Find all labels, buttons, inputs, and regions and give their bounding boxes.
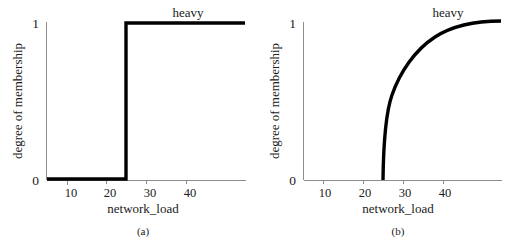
plot-b: 1 0 10 20 30 40 network_load degree of m… <box>252 0 504 246</box>
x-tick-label-20-a: 20 <box>104 186 117 200</box>
y-axis-title-a: degree of membership <box>10 43 25 159</box>
plot-a: 1 0 10 20 30 40 network_load degree of m… <box>0 0 252 246</box>
curve-label-heavy-b: heavy <box>432 5 464 20</box>
y-tick-label-bottom-a: 0 <box>32 173 39 188</box>
panel-caption-a: (a) <box>137 225 150 238</box>
panel-a: 1 0 10 20 30 40 network_load degree of m… <box>0 0 252 246</box>
x-axis-title-b: network_load <box>362 201 434 216</box>
x-tick-label-10-b: 10 <box>319 186 332 200</box>
curve-label-heavy-a: heavy <box>172 5 204 20</box>
x-axis-title-a: network_load <box>107 201 179 216</box>
membership-curve-a <box>47 23 245 179</box>
y-tick-label-top-a: 1 <box>32 16 39 31</box>
y-tick-label-top-b: 1 <box>289 16 296 31</box>
panel-caption-b: (b) <box>392 225 405 238</box>
figure-two-membership-functions: 1 0 10 20 30 40 network_load degree of m… <box>0 0 505 246</box>
membership-curve-b <box>383 21 501 180</box>
panel-b: 1 0 10 20 30 40 network_load degree of m… <box>252 0 504 246</box>
y-axis-title-b: degree of membership <box>267 43 282 159</box>
x-tick-label-30-a: 30 <box>144 186 157 200</box>
x-tick-label-30-b: 30 <box>399 186 412 200</box>
x-tick-label-20-b: 20 <box>359 186 372 200</box>
x-tick-label-40-b: 40 <box>439 186 452 200</box>
x-tick-label-40-a: 40 <box>184 186 197 200</box>
x-tick-label-10-a: 10 <box>65 186 78 200</box>
y-tick-label-bottom-b: 0 <box>289 173 296 188</box>
